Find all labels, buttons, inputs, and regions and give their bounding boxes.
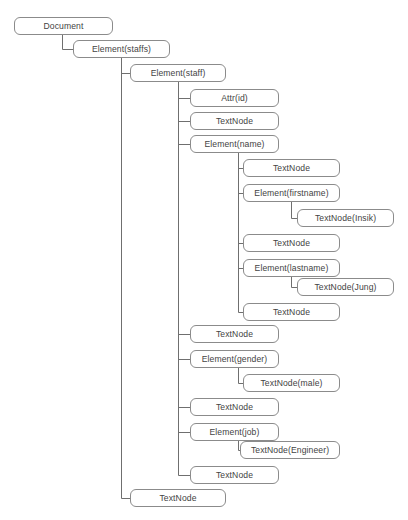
tree-node-textnode[interactable]: TextNode: [190, 466, 279, 484]
tree-node-attr-id[interactable]: Attr(id): [190, 89, 279, 107]
tree-node-textnode[interactable]: TextNode: [243, 159, 340, 177]
connector-n0-to-n1: [63, 35, 74, 50]
tree-node-textnode-jung[interactable]: TextNode(Jung): [297, 278, 394, 296]
connector-n2-to-n19: [179, 82, 191, 476]
tree-node-element-firstname[interactable]: Element(firstname): [243, 184, 340, 202]
tree-node-textnode-male[interactable]: TextNode(male): [243, 374, 340, 392]
tree-node-element-staff[interactable]: Element(staff): [130, 64, 226, 82]
connector-n1-to-n2: [122, 58, 131, 74]
connector-n2-to-n5: [179, 82, 191, 145]
connector-n1-to-n20: [122, 58, 131, 499]
tree-node-textnode[interactable]: TextNode: [243, 303, 340, 321]
tree-node-textnode[interactable]: TextNode: [190, 325, 279, 343]
connector-n2-to-n4: [179, 82, 191, 122]
tree-node-element-name[interactable]: Element(name): [190, 135, 279, 153]
connector-n2-to-n17: [179, 82, 191, 433]
tree-node-textnode-engineer[interactable]: TextNode(Engineer): [240, 441, 340, 459]
connector-n5-to-n12: [239, 153, 244, 313]
connector-n2-to-n16: [179, 82, 191, 408]
tree-node-element-gender[interactable]: Element(gender): [190, 350, 279, 368]
tree-node-document[interactable]: Document: [14, 17, 113, 35]
connector-n2-to-n13: [179, 82, 191, 335]
tree-node-element-job[interactable]: Element(job): [190, 423, 279, 441]
tree-node-textnode[interactable]: TextNode: [130, 489, 226, 507]
connector-n2-to-n3: [179, 82, 191, 99]
tree-node-element-staffs[interactable]: Element(staffs): [73, 40, 170, 58]
tree-node-element-lastname[interactable]: Element(lastname): [243, 259, 340, 277]
tree-node-textnode-insik[interactable]: TextNode(Insik): [297, 209, 394, 227]
tree-node-textnode[interactable]: TextNode: [190, 398, 279, 416]
connector-n2-to-n14: [179, 82, 191, 360]
tree-node-textnode[interactable]: TextNode: [243, 234, 340, 252]
dom-tree-diagram: DocumentElement(staffs)Element(staff)Att…: [0, 0, 408, 520]
tree-node-textnode[interactable]: TextNode: [190, 112, 279, 130]
